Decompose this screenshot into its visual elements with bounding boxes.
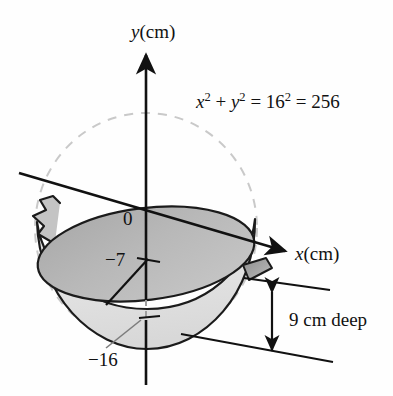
equation-equals-1: = bbox=[246, 91, 266, 112]
circle-equation: x2 + y2 = 162 = 256 bbox=[196, 92, 340, 111]
bowl-diagram-svg bbox=[0, 0, 393, 396]
x-axis-unit: (cm) bbox=[303, 243, 339, 264]
equation-rhs-value: 256 bbox=[311, 91, 340, 112]
equation-plus: + bbox=[211, 91, 231, 112]
depth-label: 9 cm deep bbox=[289, 310, 367, 329]
equation-equals-2: = bbox=[291, 91, 311, 112]
water-level-label: −7 bbox=[105, 250, 125, 269]
equation-rhs-base: 16 bbox=[266, 91, 285, 112]
bowl-bottom-label: −16 bbox=[88, 350, 118, 369]
origin-label: 0 bbox=[123, 209, 133, 228]
y-axis-unit: (cm) bbox=[139, 21, 175, 42]
y-axis-label: y(cm) bbox=[131, 22, 175, 41]
x-axis-label: x(cm) bbox=[295, 244, 339, 263]
figure-container: y(cm) x(cm) x2 + y2 = 162 = 256 0 −7 −16… bbox=[0, 0, 393, 396]
